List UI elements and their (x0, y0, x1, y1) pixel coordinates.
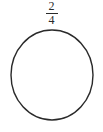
circle-outline (11, 30, 93, 120)
circle-svg (0, 0, 103, 132)
circle-container (0, 0, 103, 132)
fraction-circle-figure: 2 4 (0, 0, 103, 132)
